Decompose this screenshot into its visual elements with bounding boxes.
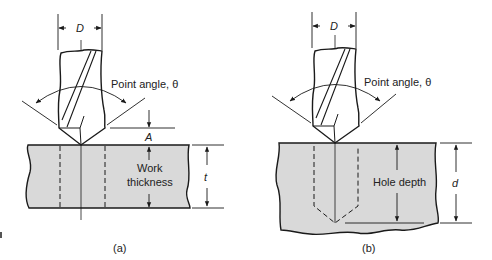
work-thickness-label-a-line2: thickness	[127, 176, 173, 188]
work-thickness-label-a-line1: Work	[137, 162, 163, 174]
caption-a: (a)	[113, 242, 126, 254]
panel-a: D Point angle, θ A Work thickness t (a)	[22, 14, 224, 254]
panel-b: D Point angle, θ Hole depth d (b)	[272, 12, 472, 254]
diameter-label-a: D	[76, 22, 84, 34]
workpiece-b	[276, 143, 439, 234]
drilling-diagram: D Point angle, θ A Work thickness t (a)	[0, 0, 492, 260]
diameter-label-b: D	[330, 20, 338, 32]
drill-bit-a	[58, 50, 105, 145]
scan-artifact	[0, 232, 2, 238]
depth-label-b: d	[452, 177, 459, 189]
hole-depth-label-b: Hole depth	[373, 176, 426, 188]
drill-bit-b	[312, 48, 359, 143]
point-angle-label-b: Point angle, θ	[364, 76, 431, 88]
caption-b: (b)	[362, 242, 375, 254]
allowance-label-a: A	[144, 131, 152, 143]
thickness-label-a: t	[204, 171, 208, 183]
point-angle-label-a: Point angle, θ	[111, 78, 178, 90]
